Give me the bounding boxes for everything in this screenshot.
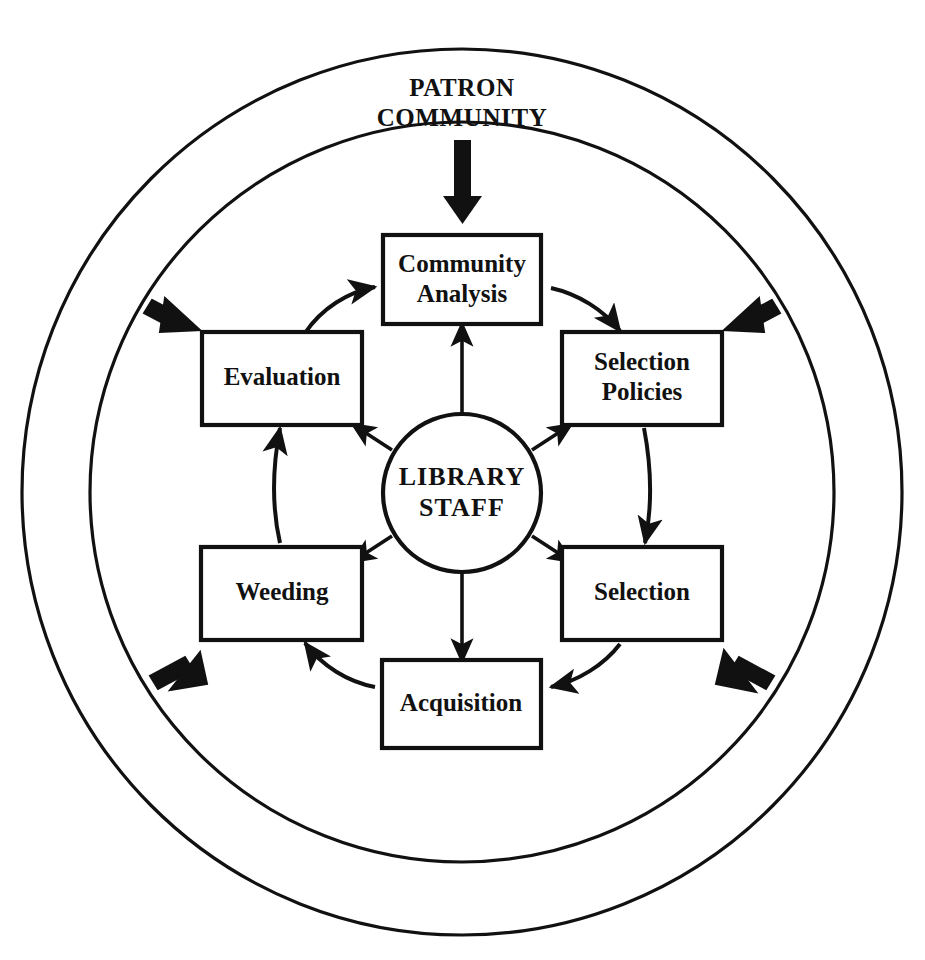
node-evaluation[interactable]: Evaluation [202, 332, 362, 425]
flow-weeding-to-evaluation [274, 428, 280, 543]
node-acquisition[interactable]: Acquisition [382, 660, 541, 748]
node-evaluation-label: Evaluation [224, 363, 341, 390]
library-staff-label-line2: STAFF [419, 493, 505, 522]
node-community-analysis-label-line2: Analysis [417, 280, 508, 307]
node-selection-policies[interactable]: Selection Policies [562, 332, 722, 425]
node-community-analysis[interactable]: Community Analysis [383, 235, 541, 324]
patron-community-label-line1: PATRON [409, 74, 514, 101]
flow-evaluation-to-community-analysis [305, 287, 375, 333]
node-community-analysis-label-line1: Community [398, 250, 526, 277]
boundary-arrow-upper-left [144, 298, 200, 332]
node-weeding[interactable]: Weeding [201, 547, 362, 640]
node-selection-policies-label-line1: Selection [594, 348, 690, 375]
flow-selection-to-acquisition [551, 644, 620, 687]
patron-community-label-line2: COMMUNITY [377, 104, 548, 131]
boundary-arrow-upper-right [724, 298, 780, 332]
flow-acquisition-to-weeding [305, 643, 375, 687]
boundary-arrow-lower-left [150, 652, 207, 690]
flow-community-analysis-to-selection-policies [551, 288, 620, 331]
library-staff-label-line1: LIBRARY [399, 462, 526, 491]
node-selection-policies-label-line2: Policies [602, 378, 683, 405]
boundary-arrow-lower-right [716, 650, 774, 692]
spoke-staff-to-selection-policies [532, 424, 572, 450]
node-weeding-label: Weeding [235, 578, 329, 605]
flow-selection-policies-to-selection [644, 428, 650, 543]
node-acquisition-label: Acquisition [400, 689, 522, 716]
node-selection-label: Selection [594, 578, 690, 605]
spoke-staff-to-evaluation [352, 424, 392, 450]
patron-community-arrow [443, 140, 482, 224]
collection-development-cycle-diagram: PATRON COMMUNITY [0, 0, 925, 960]
diagram-root: PATRON COMMUNITY [0, 0, 925, 960]
node-selection[interactable]: Selection [562, 547, 722, 640]
